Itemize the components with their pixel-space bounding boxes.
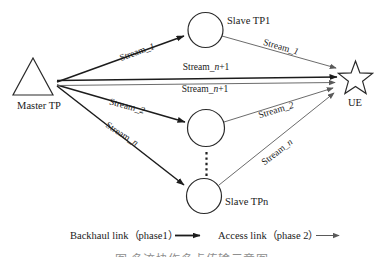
stream-n-backhaul-label: Stream_n xyxy=(104,120,140,148)
legend-backhaul-label: Backhaul link（phase1） xyxy=(70,230,178,241)
ue-star xyxy=(338,61,372,94)
comp-multistream-diagram: Master TP Slave TP1 Slave TPn UE Stream_… xyxy=(0,0,383,257)
stream-1-access-label: Stream_1 xyxy=(262,37,300,57)
stream-1-backhaul-label: Stream_1 xyxy=(118,41,156,63)
slave-tp1-circle xyxy=(188,13,223,48)
stream-n1-access-label: Stream_n+1 xyxy=(182,84,229,94)
slave-tpn-circle xyxy=(187,179,222,214)
master-tp-label: Master TP xyxy=(17,100,61,111)
master-tp-triangle xyxy=(13,58,53,95)
ue-label: UE xyxy=(348,97,362,108)
slave-tp1-label: Slave TP1 xyxy=(227,15,270,26)
link-master-to-ue-backhaul xyxy=(57,77,337,81)
slave-tp-mid-circle xyxy=(188,110,225,147)
stream-n-access-label: Stream_n xyxy=(260,137,295,167)
stream-n1-backhaul-label: Stream_n+1 xyxy=(183,62,230,72)
stream-2-access-label: Stream_2 xyxy=(257,100,295,120)
legend-access-label: Access link（phase 2） xyxy=(218,230,318,241)
diagram-canvas: Master TP Slave TP1 Slave TPn UE Stream_… xyxy=(0,0,383,257)
caption-clipped: 图 多流协作多点传输示意图 xyxy=(0,250,383,257)
stream-2-backhaul-label: Stream_2 xyxy=(108,96,146,115)
slave-tpn-label: Slave TPn xyxy=(225,196,269,207)
